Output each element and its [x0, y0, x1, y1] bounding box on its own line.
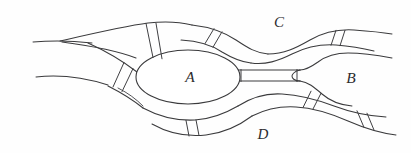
node-A-label: A: [184, 68, 195, 85]
gate-right-upper-line-1: [331, 30, 336, 45]
gate-upper-right-line-2: [213, 32, 222, 47]
gate-lower-center: [186, 120, 199, 136]
region-D-label: D: [257, 126, 269, 142]
A-to-D-inner-wall: [143, 106, 238, 120]
D-bottom-wall: [252, 107, 396, 135]
gate-right-upper-line-2: [340, 30, 345, 45]
channel-A-to-B: [238, 70, 300, 82]
gate-lower-center-line-2: [196, 120, 199, 136]
D-top-wall: [238, 94, 386, 117]
channel-A-to-D: [143, 106, 252, 136]
channel-network-diagram: A B C D: [0, 0, 411, 153]
left-upper-branch-top-wall: [60, 22, 192, 41]
gate-lower-right-inner: [303, 91, 321, 109]
left-inflow-bottom-wall: [36, 76, 108, 85]
left-lower-branch-mid-wall: [118, 88, 143, 106]
left-upper-branch-bottom-wall: [62, 42, 136, 58]
gate-upper-left: [146, 23, 162, 59]
left-lower-branch-bottom-wall: [108, 86, 143, 108]
region-C-label: C: [274, 14, 285, 30]
B-left-rounded-wall: [292, 70, 300, 81]
A-to-C-outer-wall: [192, 25, 268, 54]
gate-lower-center-line-1: [186, 120, 189, 136]
region-C-channel: [251, 30, 392, 64]
gate-upper-left-line-1: [146, 23, 153, 57]
gate-lower-left-line-2: [122, 69, 133, 92]
channel-left-lower-to-A: [88, 43, 143, 108]
diagram-canvas: A B C D: [0, 0, 411, 153]
node-B-label: B: [346, 69, 356, 86]
B-lower-wall: [300, 81, 352, 106]
gate-right-upper: [331, 30, 345, 45]
gate-lower-left-line-1: [113, 63, 124, 88]
gate-upper-right-line-1: [205, 29, 214, 44]
gate-upper-left-line-2: [156, 23, 162, 59]
gate-lower-right-inner-line-1: [303, 91, 311, 107]
B-upper-wall: [300, 53, 392, 70]
